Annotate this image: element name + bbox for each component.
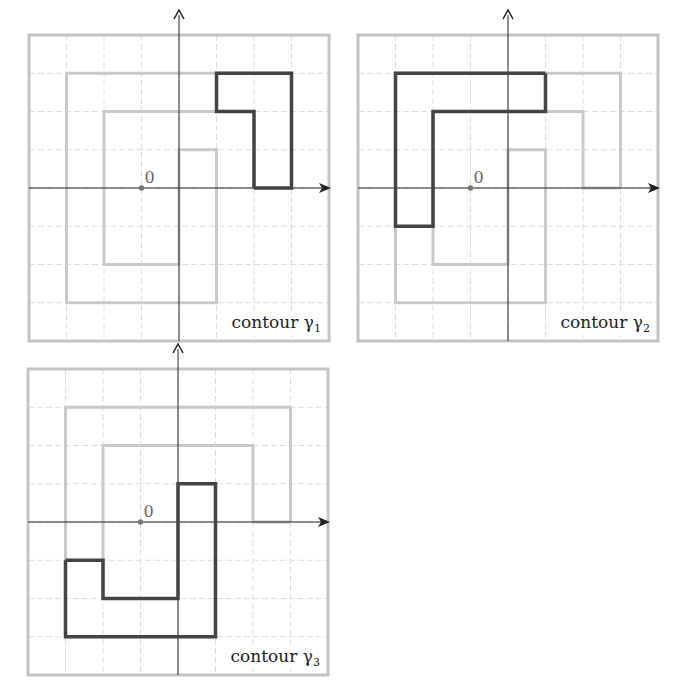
contour-plot [28, 369, 328, 675]
origin-label: 0 [144, 502, 154, 521]
panel-gamma2: 0 contour γ2 [358, 35, 658, 341]
caption-text: contour γ [561, 312, 643, 332]
origin-label: 0 [145, 168, 155, 187]
caption-subscript: 2 [643, 322, 650, 335]
caption: contour γ2 [559, 312, 652, 335]
origin-point [138, 519, 144, 525]
panel-gamma3: 0 contour γ3 [28, 369, 328, 675]
caption-subscript: 1 [314, 322, 321, 335]
origin-label: 0 [474, 168, 484, 187]
caption-text: contour γ [231, 646, 313, 666]
panel-gamma1: 0 contour γ1 [29, 35, 329, 341]
origin-point [468, 185, 474, 191]
contour-plot [29, 35, 329, 341]
caption: contour γ3 [229, 646, 322, 669]
origin-point [139, 185, 145, 191]
caption-text: contour γ [232, 312, 314, 332]
caption-subscript: 3 [313, 656, 320, 669]
contour-plot [358, 35, 658, 341]
caption: contour γ1 [230, 312, 323, 335]
